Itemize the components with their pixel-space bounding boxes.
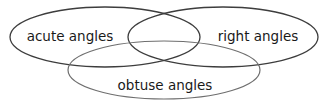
label-right-angles: right angles	[218, 28, 299, 44]
label-acute-angles: acute angles	[27, 28, 114, 44]
venn-diagram-figure: acute angles right angles obtuse angles	[0, 0, 328, 107]
label-obtuse-angles: obtuse angles	[118, 77, 213, 93]
venn-diagram-canvas: acute angles right angles obtuse angles	[0, 0, 328, 107]
